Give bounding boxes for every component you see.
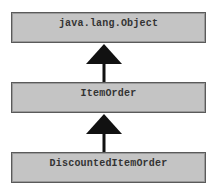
inheritance-arrow-icon [0, 114, 218, 152]
class-label: java.lang.Object [59, 18, 158, 29]
class-label: ItemOrder [81, 88, 137, 99]
class-label: DiscountedItemOrder [50, 158, 168, 169]
inheritance-arrow-icon [0, 44, 218, 82]
class-box-discounteditemorder: DiscountedItemOrder [11, 152, 206, 183]
class-box-java-lang-object: java.lang.Object [11, 12, 206, 43]
class-box-itemorder: ItemOrder [11, 82, 206, 113]
